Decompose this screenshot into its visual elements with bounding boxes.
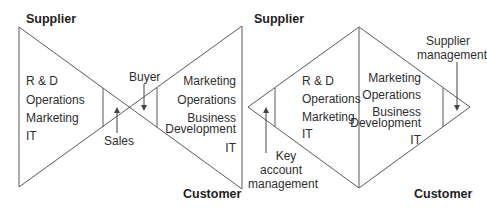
diamond-customer-func: Marketing (368, 71, 421, 85)
key-account-label-line: management (248, 177, 314, 191)
diamond-supplier-func: Marketing (302, 110, 355, 124)
bowtie-customer-label: Customer (183, 187, 241, 201)
diamond-customer-func: Operations (362, 88, 421, 102)
bowtie-supplier-func: Marketing (26, 111, 79, 125)
diamond-customer-func: IT (410, 133, 421, 147)
bowtie-supplier-func: R & D (26, 74, 58, 88)
buyer-label: Buyer (129, 70, 160, 84)
bowtie-customer-func: IT (225, 141, 236, 155)
bowtie-customer-func: Development (165, 122, 236, 136)
diamond-customer-label: Customer (414, 187, 472, 201)
sales-label: Sales (104, 134, 134, 148)
diamond-customer-func: Development (350, 116, 421, 130)
bowtie-supplier-func: Operations (26, 93, 85, 107)
diamond-supplier-func: R & D (302, 74, 334, 88)
bowtie-supplier-func: IT (26, 129, 37, 143)
bowtie-diagonal-down (19, 27, 242, 189)
key-account-label-line: Key (248, 149, 314, 163)
diamond-supplier-func: Operations (302, 92, 361, 106)
diamond-supplier-label: Supplier (254, 12, 304, 26)
diamond-supplier-func: IT (302, 127, 313, 141)
bowtie-customer-func: Marketing (183, 74, 236, 88)
key-account-label: Key account management (248, 149, 314, 191)
supplier-mgmt-label-line: Supplier (417, 34, 479, 48)
bowtie-customer-func: Operations (177, 93, 236, 107)
key-account-label-line: account (248, 163, 314, 177)
bowtie-supplier-label: Supplier (26, 12, 76, 26)
supplier-mgmt-label: Supplier management (417, 34, 479, 62)
supplier-mgmt-label-line: management (417, 48, 479, 62)
